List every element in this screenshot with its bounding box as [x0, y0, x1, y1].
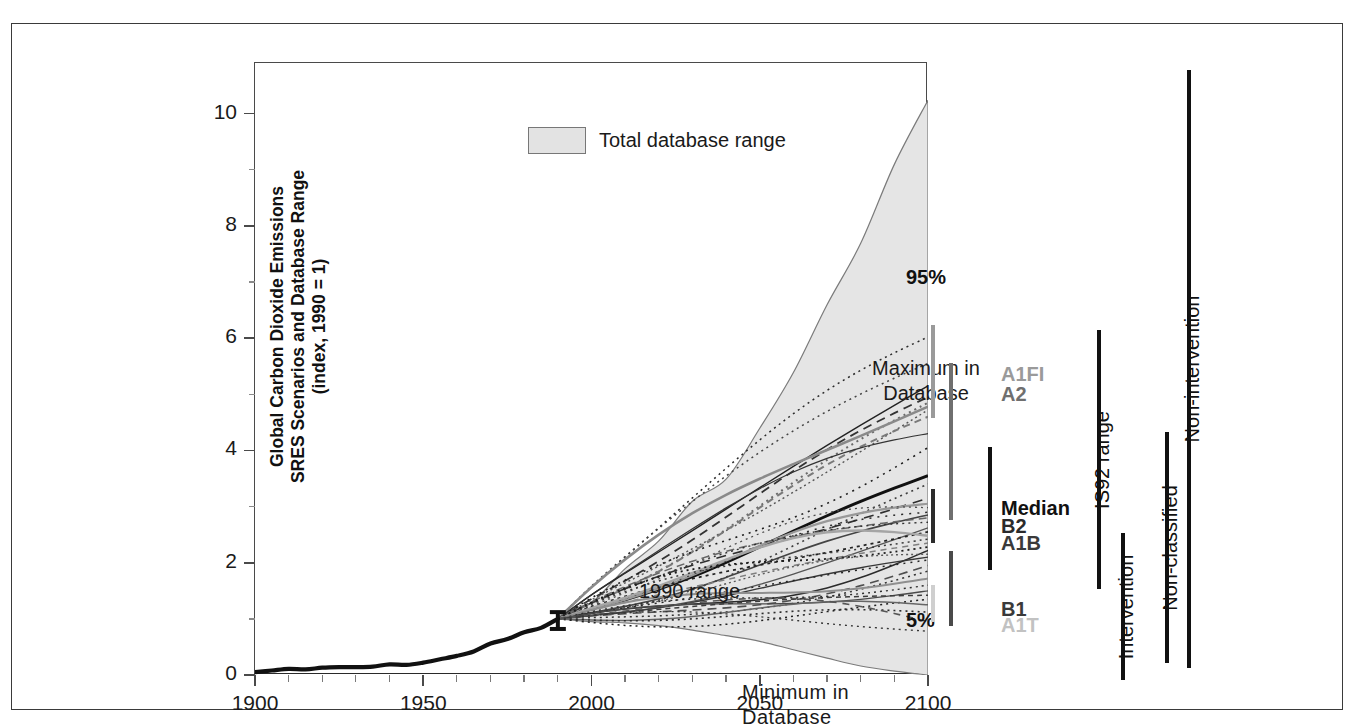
marker-bar-a1t — [931, 585, 935, 622]
x-tick-label: 2000 — [548, 691, 636, 715]
scenario-line — [558, 601, 928, 620]
y-tick-mark — [244, 337, 255, 339]
scenario-line — [558, 522, 928, 619]
y-tick-label: 8 — [191, 212, 237, 236]
scenario-label-a2: A2 — [1001, 383, 1027, 406]
legend-swatch-total-database-range — [528, 127, 586, 154]
range-bar-label-is92-range: IS92 range — [1091, 411, 1114, 509]
x-minor-tick — [692, 675, 693, 682]
marker-bar-median-b2-a1b — [988, 447, 992, 569]
y-minor-tick — [249, 394, 255, 395]
x-minor-tick — [624, 675, 625, 682]
scenario-line — [558, 585, 928, 619]
scenario-line — [558, 417, 928, 619]
annotation-maximum-in-database: Maximum in Database — [846, 356, 1006, 406]
y-tick-mark — [244, 113, 255, 115]
scenario-line — [558, 550, 928, 619]
x-minor-tick — [860, 675, 861, 682]
scenario-line — [558, 554, 928, 619]
y-minor-tick — [249, 169, 255, 170]
y-tick-mark — [244, 562, 255, 564]
scenario-line — [558, 598, 928, 622]
y-axis-label-line-3: (index, 1990 = 1) — [309, 112, 330, 542]
marker-bar-b1 — [949, 551, 953, 626]
x-minor-tick — [523, 675, 524, 682]
marker-bar-a1fi — [931, 325, 935, 418]
y-axis-label: Global Carbon Dioxide Emissions SRES Sce… — [267, 112, 330, 542]
x-tick-label: 2100 — [884, 691, 972, 715]
x-tick-label: 1900 — [211, 691, 299, 715]
x-tick-mark — [759, 675, 761, 686]
scenario-line — [558, 560, 928, 619]
legend-label-total-database-range: Total database range — [599, 129, 786, 152]
scenario-label-a1b: A1B — [1001, 532, 1041, 555]
scenario-line — [558, 599, 928, 627]
marker-bar-median — [931, 489, 935, 543]
y-axis-label-line-2: SRES Scenarios and Database Range — [288, 112, 309, 542]
annotation-1990-range: 1990 range — [639, 579, 740, 604]
range-bar-label-intervention: Intervention — [1115, 554, 1138, 659]
chart-canvas — [255, 63, 928, 675]
y-tick-label: 0 — [191, 661, 237, 685]
scenario-label-a1t: A1T — [1001, 614, 1039, 637]
range-bar-label-non-intervention: Non-intervention — [1181, 295, 1204, 442]
y-tick-mark — [244, 225, 255, 227]
figure-border: Global Carbon Dioxide Emissions SRES Sce… — [11, 23, 1343, 710]
x-minor-tick — [490, 675, 491, 682]
scenario-line — [558, 504, 928, 619]
scenario-line — [558, 532, 928, 619]
scenario-line — [558, 566, 928, 619]
scenario-line — [558, 595, 928, 619]
historical-emissions-line — [255, 619, 558, 672]
scenario-line — [558, 591, 928, 619]
scenario-line — [558, 610, 928, 621]
plot-area: Global Carbon Dioxide Emissions SRES Sce… — [254, 62, 927, 674]
x-tick-mark — [591, 675, 593, 686]
x-minor-tick — [355, 675, 356, 682]
scenario-line — [558, 539, 928, 619]
scenario-line — [558, 515, 928, 619]
x-minor-tick — [894, 675, 895, 682]
scenario-line — [558, 612, 928, 632]
x-tick-mark — [254, 675, 256, 686]
y-tick-label: 10 — [191, 100, 237, 124]
x-minor-tick — [826, 675, 827, 682]
marker-bar-a2 — [949, 363, 953, 520]
x-minor-tick — [288, 675, 289, 682]
x-minor-tick — [725, 675, 726, 682]
scenario-line — [558, 518, 928, 619]
y-minor-tick — [249, 281, 255, 282]
scenario-line — [558, 507, 928, 619]
scenario-line — [558, 448, 928, 619]
y-tick-mark — [244, 450, 255, 452]
scenario-line — [558, 403, 928, 619]
scenario-line — [558, 543, 928, 619]
scenario-line — [558, 476, 928, 619]
x-tick-mark — [422, 675, 424, 686]
scenario-line — [558, 547, 928, 619]
scenario-line — [558, 410, 928, 619]
x-tick-mark — [927, 675, 929, 686]
scenario-line — [558, 557, 928, 619]
x-minor-tick — [557, 675, 558, 682]
y-tick-label: 6 — [191, 324, 237, 348]
x-minor-tick — [389, 675, 390, 682]
x-minor-tick — [793, 675, 794, 682]
annotation-max-line1: Maximum in — [846, 356, 1006, 381]
x-minor-tick — [658, 675, 659, 682]
scenario-line — [558, 528, 928, 619]
x-tick-label: 2050 — [716, 691, 804, 715]
scenario-line — [558, 498, 928, 619]
label-95-percent: 95% — [906, 266, 946, 289]
scenario-line — [558, 386, 928, 619]
scenario-line — [558, 407, 928, 619]
scenario-line — [558, 484, 928, 619]
y-axis-label-line-1: Global Carbon Dioxide Emissions — [267, 112, 288, 542]
scenario-line — [558, 578, 928, 618]
scenario-line — [558, 434, 928, 619]
x-tick-label: 1950 — [379, 691, 467, 715]
range-bar-label-non-classified: Non-classified — [1159, 485, 1182, 611]
y-tick-label: 2 — [191, 549, 237, 573]
annotation-max-line2: Database — [846, 381, 1006, 406]
